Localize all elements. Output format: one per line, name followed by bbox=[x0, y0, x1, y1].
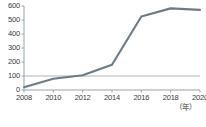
line-chart: 0100200300400500600 20082010201220142016… bbox=[0, 0, 206, 127]
x-tick-label: 2020 bbox=[187, 94, 206, 102]
y-tick-label: 400 bbox=[0, 30, 20, 38]
x-tick-label: 2012 bbox=[70, 94, 96, 102]
y-tick-label: 100 bbox=[0, 72, 20, 80]
x-tick-label: 2014 bbox=[99, 94, 125, 102]
data-series-line bbox=[24, 8, 200, 87]
y-tick-label: 300 bbox=[0, 44, 20, 52]
y-tick-label: 600 bbox=[0, 2, 20, 10]
x-tick-label: 2016 bbox=[128, 94, 154, 102]
x-tick-label: 2008 bbox=[11, 94, 37, 102]
chart-plot-area: 0100200300400500600 20082010201220142016… bbox=[0, 0, 206, 127]
y-tick-label: 200 bbox=[0, 58, 20, 66]
x-tick-label: 2010 bbox=[40, 94, 66, 102]
x-tick-label: 2018 bbox=[158, 94, 184, 102]
y-tick-label: 500 bbox=[0, 16, 20, 24]
x-axis-unit-label: （年） bbox=[170, 104, 200, 112]
chart-axes bbox=[24, 6, 200, 90]
